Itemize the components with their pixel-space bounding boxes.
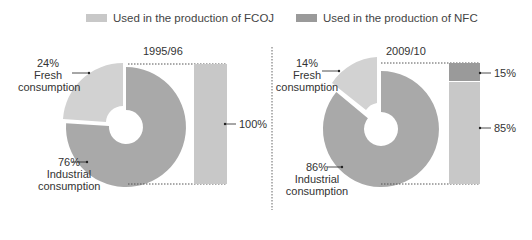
panel-title-1995: 1995/96 bbox=[143, 45, 183, 57]
industrial-line2-2009: consumption bbox=[284, 185, 350, 197]
bar-nfc-2009 bbox=[449, 63, 480, 81]
fresh-line2-2009: consumption bbox=[274, 81, 340, 93]
bar-fcoj-2009 bbox=[449, 82, 480, 184]
fresh-pct-2009: 14% bbox=[274, 57, 340, 69]
fresh-label-2009: 14% Fresh consumption bbox=[274, 57, 340, 93]
industrial-label-2009: 86% Industrial consumption bbox=[284, 161, 350, 197]
industrial-pct-2009: 86% bbox=[284, 161, 350, 173]
industrial-line1-1995: Industrial bbox=[38, 168, 100, 180]
fresh-line1-2009: Fresh bbox=[274, 69, 340, 81]
fresh-line1-1995: Fresh bbox=[18, 69, 78, 81]
bar-label-fcoj-2009: 85% bbox=[494, 122, 516, 134]
bar-label-100-1995: 100% bbox=[239, 118, 267, 130]
industrial-label-1995: 76% Industrial consumption bbox=[38, 156, 100, 192]
bar-label-nfc-2009: 15% bbox=[494, 67, 516, 79]
bar-fcoj-1995 bbox=[194, 64, 227, 184]
industrial-line2-1995: consumption bbox=[38, 180, 100, 192]
panel-title-2009: 2009/10 bbox=[386, 45, 426, 57]
fresh-label-1995: 24% Fresh consumption bbox=[18, 57, 78, 93]
fresh-pct-1995: 24% bbox=[18, 57, 78, 69]
industrial-pct-1995: 76% bbox=[38, 156, 100, 168]
fresh-line2-1995: consumption bbox=[18, 81, 78, 93]
industrial-line1-2009: Industrial bbox=[284, 173, 350, 185]
